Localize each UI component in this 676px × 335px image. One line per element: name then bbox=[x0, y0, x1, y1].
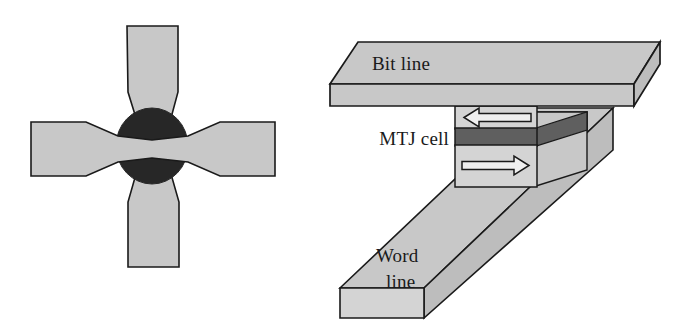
right-panel-mtj-3d: Bit line MTJ cell Word line bbox=[330, 42, 660, 318]
bit-line-label: Bit line bbox=[372, 53, 430, 74]
word-line-label-line1: Word bbox=[376, 245, 419, 266]
word-line-label-line2: line bbox=[386, 271, 415, 292]
word-line-end-face bbox=[340, 288, 424, 318]
figure-root: Bit line MTJ cell Word line bbox=[0, 0, 676, 335]
mtj-tunnel-barrier-face bbox=[455, 128, 537, 146]
mtj-cell-label: MTJ cell bbox=[379, 128, 449, 149]
right-panel-svg: Bit line MTJ cell Word line bbox=[0, 0, 676, 335]
bit-line-front-face bbox=[330, 84, 634, 106]
